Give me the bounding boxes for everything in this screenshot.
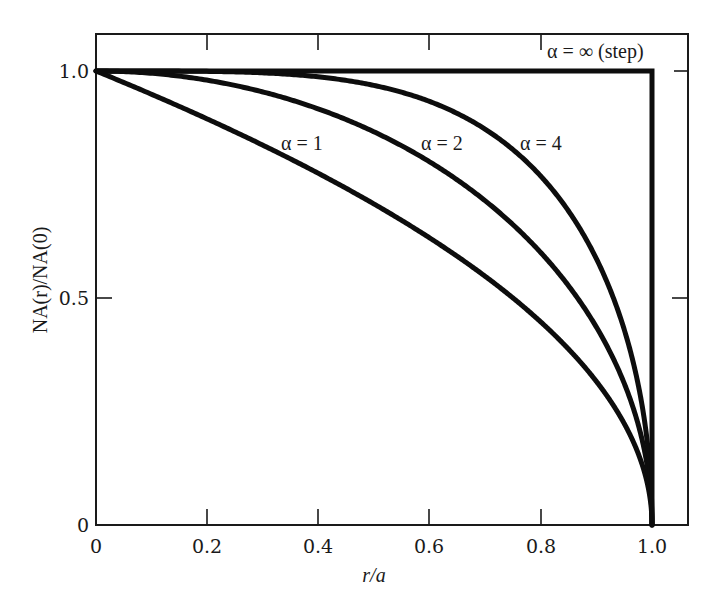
chart-figure: 0 0.2 0.4 0.6 0.8 1.0 0 0.5 1.0 r/a NA(r… xyxy=(0,0,715,608)
y-tick-label: 0.5 xyxy=(59,287,89,309)
x-tick-label: 0.6 xyxy=(414,535,444,557)
x-tick-label: 0.2 xyxy=(192,535,222,557)
x-tick-label: 1.0 xyxy=(637,535,667,557)
curve-alpha-2 xyxy=(96,71,652,525)
x-tick-label: 0.4 xyxy=(303,535,333,557)
y-axis-label: NA(r)/NA(0) xyxy=(29,227,52,334)
curve-label-alpha-2: α = 2 xyxy=(421,132,463,154)
curve-label-alpha-4: α = 4 xyxy=(520,132,562,154)
curve-alpha-1 xyxy=(96,71,652,525)
x-tick-label: 0.8 xyxy=(526,535,556,557)
x-tick-labels: 0 0.2 0.4 0.6 0.8 1.0 xyxy=(90,535,667,557)
curve-label-alpha-infinity: α = ∞ (step) xyxy=(547,40,644,63)
x-axis-label: r/a xyxy=(362,564,385,586)
curves xyxy=(96,71,652,525)
x-tick-label: 0 xyxy=(90,535,102,557)
y-tick-labels: 0 0.5 1.0 xyxy=(59,60,89,536)
curve-alpha-4 xyxy=(96,71,652,525)
curve-alpha-infinity-step xyxy=(96,71,652,525)
y-tick-label: 0 xyxy=(77,514,89,536)
curve-label-alpha-1: α = 1 xyxy=(281,132,323,154)
y-tick-label: 1.0 xyxy=(59,60,89,82)
